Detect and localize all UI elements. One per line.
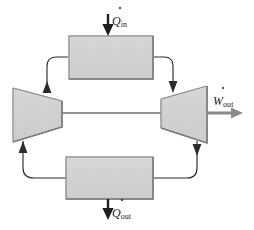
pipe-turbine-to-cooler [153,141,197,178]
arrowhead-cooler-to-compressor [19,141,28,153]
heat-rejection-exchanger-texture [66,157,153,199]
pipe-cooler-to-compressor [23,141,66,178]
heat-out-subscript: out [121,212,132,221]
work-out-arrow-head [231,108,243,119]
heat-in-subscript: in [121,20,127,29]
heat-out-dot [121,199,123,201]
heat-out-symbol: Q [112,206,121,220]
pipe-compressor-to-heater [47,57,68,86]
heat-addition-exchanger-texture [69,36,153,79]
heat-addition-exchanger [69,36,153,79]
heat-in-symbol: Q [112,14,121,28]
arrowhead-turbine-to-cooler [193,144,202,156]
cycle-diagram-figure: Qin Qout Wout [0,0,254,230]
work-out-arrow [207,108,243,119]
turbine-texture [161,86,207,143]
heat-in-label: Qin [112,12,127,29]
arrowhead-compressor-to-heater [43,81,52,93]
work-out-label: Wout [213,92,234,109]
turbine [161,86,207,143]
compressor [13,88,62,142]
work-out-subscript: out [223,100,234,109]
work-out-symbol: W [213,94,223,108]
cycle-diagram-canvas [0,0,254,230]
arrowhead-heater-to-turbine [169,81,178,93]
work-out-dot [222,87,224,89]
heat-rejection-exchanger [66,157,153,199]
heat-in-dot [119,7,121,9]
heat-out-label: Qout [112,204,131,221]
